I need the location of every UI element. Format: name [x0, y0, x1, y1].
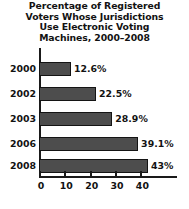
x-tick-label-40: 40: [131, 180, 153, 192]
bar-chart: Percentage of Registered Voters Whose Ju…: [0, 0, 189, 209]
category-label-2008: 2008: [2, 159, 36, 173]
bar-value-2003: 28.9%: [115, 114, 148, 123]
x-tick-10: [64, 171, 66, 177]
x-tick-0: [39, 171, 41, 177]
chart-title: Percentage of Registered Voters Whose Ju…: [0, 1, 189, 43]
bar-row-2008: 43%: [39, 159, 173, 173]
bar-row-2002: 22.5%: [39, 87, 132, 101]
category-label-2000: 2000: [2, 62, 36, 76]
bar-2006: [39, 137, 138, 151]
bar-row-2000: 12.6%: [39, 62, 106, 76]
category-label-2006: 2006: [2, 137, 36, 151]
bar-2003: [39, 112, 112, 126]
bar-value-2006: 39.1%: [141, 139, 174, 148]
category-label-2002: 2002: [2, 87, 36, 101]
chart-title-line: Machines, 2000–2008: [0, 33, 189, 44]
bar-row-2006: 39.1%: [39, 137, 174, 151]
x-tick-label-10: 10: [55, 180, 77, 192]
bar-row-2003: 28.9%: [39, 112, 148, 126]
x-tick-label-30: 30: [106, 180, 128, 192]
bar-value-2008: 43%: [151, 161, 173, 170]
x-tick-20: [90, 171, 92, 177]
x-tick-label-0: 0: [30, 180, 52, 192]
chart-title-line: Percentage of Registered: [0, 1, 189, 12]
category-label-2003: 2003: [2, 112, 36, 126]
x-tick-40: [140, 171, 142, 177]
x-axis-line: [39, 176, 177, 178]
bar-2008: [39, 159, 148, 173]
bar-value-2002: 22.5%: [99, 89, 132, 98]
bar-2002: [39, 87, 96, 101]
x-tick-30: [115, 171, 117, 177]
bar-2000: [39, 62, 71, 76]
x-tick-label-20: 20: [81, 180, 103, 192]
bar-value-2000: 12.6%: [74, 64, 107, 73]
